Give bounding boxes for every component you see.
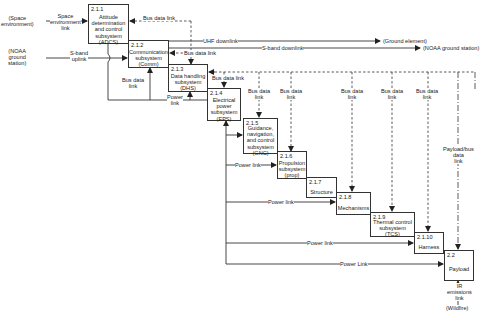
box-title: Data handling subsystem (DHS)	[169, 73, 207, 92]
box-id: 2.1.3	[171, 66, 183, 72]
box-title: Attitude determination and control subsy…	[89, 14, 128, 45]
power-link-prop-label: Power link	[235, 162, 261, 168]
box-title: Payload	[445, 266, 473, 272]
noaa-ground-label: (NOAA ground station)	[8, 48, 26, 66]
box-eps: 2.1.4 Electrical power subsystem (EPS)	[207, 88, 241, 121]
bus-data-link-comm-label: Bus data link	[184, 50, 216, 56]
box-comm: 2.1.2 Communication subsystem (Comm)	[128, 40, 169, 68]
space-environment-label: (Space environment)	[1, 15, 34, 27]
box-id: 2.1.4	[210, 90, 222, 96]
noaa-ground-station-label: (NOAA ground station)	[423, 45, 479, 51]
payload-bus-data-link-label: Payload/bus data link	[443, 146, 474, 164]
box-id: 2.1.10	[417, 234, 433, 240]
box-payload: 2.2 Payload	[444, 250, 474, 281]
bus-data-link-eps-label: Bus data link	[212, 75, 244, 81]
box-adcs: 2.1.1 Attitude determination and control…	[88, 4, 129, 44]
box-id: 2.1.7	[309, 179, 321, 185]
box-title: Mechanisms	[337, 205, 370, 211]
bus-data-link-harness-label: Bus data link	[416, 88, 438, 100]
box-title: Thermal control subsystem (TCS)	[371, 219, 414, 238]
box-title: Guidance, navigation, and control subsys…	[244, 125, 277, 156]
ground-element-label: (Ground element)	[383, 38, 427, 44]
bus-data-link-prop-label: Bus data link	[280, 88, 302, 100]
s-band-downlink-label: S-band downlink	[262, 45, 303, 51]
space-env-link-label: Space environment link	[50, 13, 81, 31]
box-gnc: 2.1.5 Guidance, navigation, and control …	[243, 118, 278, 154]
box-title: Harness	[415, 244, 443, 250]
box-id: 2.1.1	[91, 6, 103, 12]
power-link-mech-label: Power link	[268, 199, 294, 205]
uhf-downlink-label: UHF downlink	[203, 38, 238, 44]
ir-emissions-link-label: IR emissions link	[447, 283, 472, 301]
power-link-dhs-label: Power link	[167, 94, 183, 106]
power-link-harness-label: Power link	[307, 240, 333, 246]
bus-data-link-mech-label: Bus data link	[341, 88, 363, 100]
box-id: 2.1.8	[339, 194, 351, 200]
s-band-uplink-label: S-band uplink	[70, 50, 88, 62]
bus-data-link-comm-loop-label: Bus data link	[122, 77, 144, 89]
box-structure: 2.1.7 Structure	[306, 177, 337, 198]
power-link-payload-label: Power Link	[340, 261, 368, 267]
box-id: 2.2	[447, 252, 455, 258]
box-title: Structure	[307, 189, 336, 195]
box-title: Communication subsystem (Comm)	[129, 49, 168, 68]
wildfire-label: (Wildfire)	[446, 305, 468, 311]
bus-data-link-tcs-label: Bus data link	[381, 88, 403, 100]
box-dhs: 2.1.3 Data handling subsystem (DHS)	[168, 64, 208, 92]
box-title: Electrical power subsystem (EPS)	[208, 97, 240, 122]
box-title: Propulsion subsystem (prop)	[278, 160, 306, 179]
box-mechanisms: 2.1.8 Mechanisms	[336, 192, 371, 215]
box-prop: 2.1.6 Propulsion subsystem (prop)	[277, 151, 307, 179]
bus-data-link-gnc-label: Bus data link	[248, 88, 270, 100]
box-id: 2.1.2	[131, 42, 143, 48]
bus-data-link-adcs-label: Bus data link	[143, 15, 175, 21]
box-id: 2.1.6	[280, 153, 292, 159]
box-harness: 2.1.10 Harness	[414, 232, 444, 254]
box-tcs: 2.1.9 Thermal control subsystem (TCS)	[370, 212, 415, 237]
connector-lines	[0, 0, 482, 321]
